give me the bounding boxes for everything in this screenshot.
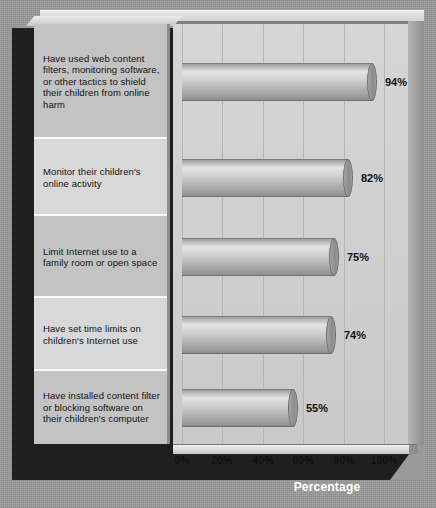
bar-value-label: 94%: [385, 76, 407, 88]
category-label-text: Monitor their children's online activity: [43, 166, 161, 189]
category-label-text: Have installed content filter or blockin…: [43, 390, 161, 425]
bar-body: [182, 63, 372, 101]
bar-value-label: 74%: [344, 329, 366, 341]
bar-value-label: 55%: [306, 402, 328, 414]
bar: [182, 63, 372, 101]
bar-body: [182, 389, 293, 427]
bar: [182, 389, 293, 427]
category-label-row: Have set time limits on children's Inter…: [34, 298, 167, 371]
x-tick-label: 60%: [292, 454, 313, 466]
chart-3d-container: Have used web content filters, monitorin…: [12, 10, 424, 480]
x-axis-baseline: [173, 444, 417, 454]
category-label-row: Have used web content filters, monitorin…: [34, 24, 167, 139]
bar-value-label: 82%: [361, 172, 383, 184]
x-tick-label: 100%: [371, 454, 398, 466]
bar-value-label: 75%: [347, 251, 369, 263]
bar-body: [182, 159, 348, 197]
bar-end-cap: [367, 63, 377, 101]
x-tick-label: 40%: [252, 454, 273, 466]
x-tick-label: 80%: [333, 454, 354, 466]
category-label-text: Have set time limits on children's Inter…: [43, 323, 161, 346]
category-label-panel: Have used web content filters, monitorin…: [34, 24, 170, 444]
x-axis-title: Percentage: [252, 480, 402, 494]
category-label-row: Have installed content filter or blockin…: [34, 371, 167, 444]
bar-end-cap: [288, 389, 298, 427]
bar: [182, 316, 331, 354]
bar-end-cap: [329, 238, 339, 276]
bar-end-cap: [326, 316, 336, 354]
category-label-text: Have used web content filters, monitorin…: [43, 53, 161, 111]
bar-body: [182, 316, 331, 354]
bar-end-cap: [343, 159, 353, 197]
category-label-row: Limit Internet use to a family room or o…: [34, 216, 167, 298]
category-label-text: Limit Internet use to a family room or o…: [43, 246, 161, 269]
bar: [182, 238, 334, 276]
category-label-row: Monitor their children's online activity: [34, 139, 167, 216]
x-axis-ticks: 0%20%40%60%80%100%: [173, 454, 417, 470]
bar: [182, 159, 348, 197]
x-tick-label: 20%: [211, 454, 232, 466]
x-tick-label: 0%: [174, 454, 189, 466]
plot-area: 94%82%75%74%55%: [173, 24, 408, 444]
bar-body: [182, 238, 334, 276]
chart-right-face: [408, 21, 424, 445]
